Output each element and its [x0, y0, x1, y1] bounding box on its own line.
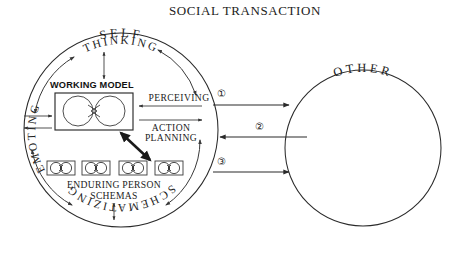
social-transaction-diagram: SOCIAL TRANSACTION SELF THINKING SCHEMAT…	[0, 0, 471, 254]
other-circle	[285, 70, 441, 226]
diagram-canvas: SOCIAL TRANSACTION SELF THINKING SCHEMAT…	[0, 0, 471, 254]
enduring-person-schemas-line1: ENDURING PERSON	[67, 179, 161, 190]
schema-item	[47, 161, 75, 175]
working-model-label: WORKING MODEL	[50, 80, 134, 90]
transaction-marker-1: ①	[217, 88, 226, 99]
action-planning-label-line2: PLANNING	[145, 132, 197, 143]
transaction-marker-3: ③	[217, 156, 226, 167]
cycle-arc-thinking-perceiving	[158, 50, 196, 95]
working-model-node-self	[63, 96, 93, 126]
schema-item	[119, 161, 147, 175]
schema-item	[82, 161, 110, 175]
schema-item	[155, 161, 183, 175]
working-model-box	[55, 93, 133, 130]
diagram-title: SOCIAL TRANSACTION	[169, 3, 321, 18]
enduring-person-schemas-group	[47, 161, 183, 175]
perceiving-label: PERCEIVING	[148, 92, 209, 103]
enduring-person-schemas-line2: SCHEMAS	[90, 190, 137, 201]
working-model-node-other	[95, 96, 125, 126]
other-label: OTHER	[332, 61, 395, 80]
transaction-marker-2: ②	[255, 121, 264, 132]
